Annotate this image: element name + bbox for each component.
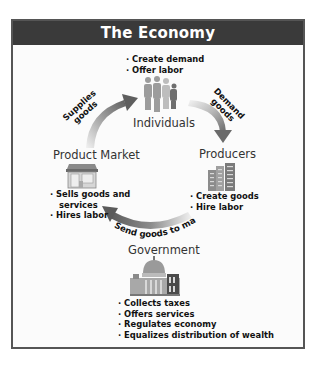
producers-bullet: · Create goods — [190, 191, 259, 202]
people-icon — [140, 76, 180, 114]
producers-bullet: · Hire labor — [190, 202, 259, 213]
government-bullet: · Collects taxes — [118, 298, 274, 309]
producers-label: Producers — [199, 147, 256, 161]
product-market-bullet: · Sells goods and — [50, 189, 130, 200]
product-market-bullet: · Hires labor — [50, 210, 130, 221]
factory-buildings-icon — [207, 163, 237, 191]
product-market-bullets: · Sells goods and services · Hires labor — [50, 189, 130, 221]
individuals-bullets: · Create demand · Offer labor — [126, 54, 204, 75]
storefront-icon — [65, 163, 99, 189]
government-bullet: · Equalizes distribution of wealth — [118, 330, 274, 341]
individuals-label: Individuals — [133, 116, 195, 130]
individuals-bullet: · Offer labor — [126, 65, 204, 76]
capitol-building-icon — [129, 256, 181, 296]
government-bullets: · Collects taxes · Offers services · Reg… — [118, 298, 274, 340]
individuals-bullet: · Create demand — [126, 54, 204, 65]
product-market-label: Product Market — [53, 148, 140, 162]
government-label: Government — [128, 243, 200, 257]
producers-bullets: · Create goods · Hire labor — [190, 191, 259, 212]
